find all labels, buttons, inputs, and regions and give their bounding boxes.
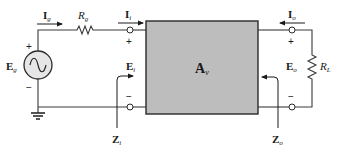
source-current-label: Ig xyxy=(43,9,51,23)
input-port: + − Ii Ei Zi xyxy=(112,8,146,147)
resistor-rl-icon xyxy=(295,30,316,107)
source-top-wire xyxy=(38,30,75,51)
resistor-rg-icon xyxy=(75,26,130,34)
input-voltage-label: Ei xyxy=(126,60,135,74)
input-terminal-plus xyxy=(127,27,133,33)
output-plus-sign: + xyxy=(288,36,294,47)
amplifier-circuit-diagram: + − Eg Ig Rg + − Ii Ei Zi Av + − xyxy=(0,0,343,150)
load-resistor-label: RL xyxy=(319,60,331,74)
input-minus-sign: − xyxy=(126,91,132,102)
input-plus-sign: + xyxy=(126,36,132,47)
input-impedance-label: Zi xyxy=(112,133,121,147)
source-resistor-label: Rg xyxy=(77,9,89,23)
output-voltage-label: Eo xyxy=(286,60,297,74)
output-terminal-minus xyxy=(289,104,295,110)
source-branch: + − Eg Ig Rg xyxy=(6,9,130,119)
amplifier-block: Av xyxy=(146,21,258,114)
source-minus-sign: − xyxy=(26,82,32,93)
input-impedance-arrow xyxy=(117,76,133,128)
output-port: + − Io Eo Zo xyxy=(258,8,305,147)
output-terminal-plus xyxy=(289,27,295,33)
input-terminal-minus xyxy=(127,104,133,110)
ground-icon xyxy=(31,108,45,119)
source-plus-sign: + xyxy=(26,41,32,52)
load-branch: RL xyxy=(295,30,331,107)
output-impedance-label: Zo xyxy=(272,133,283,147)
input-current-label: Ii xyxy=(125,8,131,22)
source-voltage-label: Eg xyxy=(6,60,17,74)
output-impedance-arrow xyxy=(262,77,278,128)
output-current-label: Io xyxy=(288,8,296,22)
output-minus-sign: − xyxy=(288,91,294,102)
